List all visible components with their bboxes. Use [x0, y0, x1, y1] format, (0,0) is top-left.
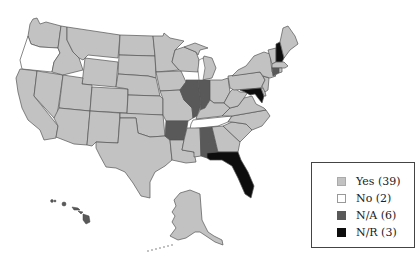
legend-swatch-no — [337, 194, 346, 203]
legend-swatch-yes — [337, 177, 346, 186]
state-hawaii — [51, 200, 90, 224]
state-washington — [28, 18, 61, 48]
map-legend: Yes (39) No (2) N/A (6) N/R (3) — [311, 162, 415, 248]
state-wyoming — [82, 58, 118, 87]
legend-item-yes: Yes (39) — [337, 174, 401, 188]
legend-label-yes: Yes (39) — [356, 175, 401, 188]
contiguous-us — [16, 18, 298, 198]
state-florida — [207, 152, 254, 198]
state-connecticut — [272, 68, 279, 76]
legend-swatch-nr — [337, 228, 346, 237]
legend-label-no: No (2) — [356, 192, 391, 205]
state-massachusetts — [272, 62, 288, 68]
state-maine — [280, 26, 298, 58]
state-colorado — [90, 87, 128, 113]
state-arizona — [54, 108, 90, 145]
legend-item-no: No (2) — [337, 191, 391, 205]
state-alaska — [170, 190, 223, 245]
legend-swatch-na — [337, 211, 346, 220]
state-new-mexico — [87, 111, 120, 146]
state-north-dakota — [119, 35, 155, 56]
legend-item-nr: N/R (3) — [337, 225, 397, 239]
aleutian-islands — [147, 244, 173, 252]
state-kansas — [127, 95, 163, 115]
state-rhode-island — [279, 68, 282, 73]
legend-label-na: N/A (6) — [356, 209, 396, 222]
legend-label-nr: N/R (3) — [356, 226, 397, 239]
legend-item-na: N/A (6) — [337, 208, 396, 222]
